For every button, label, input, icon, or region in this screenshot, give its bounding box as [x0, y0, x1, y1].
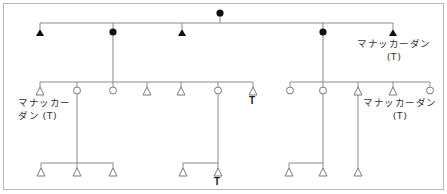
filled-triangle-icon — [36, 29, 44, 36]
open-triangle-icon — [214, 168, 222, 176]
gen3-right-label: マナッカーダン (T) — [358, 96, 442, 122]
label-line-name: マナッカー — [18, 96, 71, 109]
filled-circle-icon — [319, 28, 326, 35]
open-circle-icon — [215, 87, 222, 94]
open-triangle-icon — [354, 168, 362, 176]
filled-circle-icon — [216, 9, 223, 16]
open-circle-icon — [427, 87, 434, 94]
open-triangle-icon — [37, 168, 45, 176]
open-triangle-icon — [389, 87, 397, 95]
label-line-name: マナッカーダン — [352, 37, 436, 50]
label-line-name: マナッカーダン — [358, 96, 442, 109]
t-mark-gen4: T — [214, 176, 220, 187]
filled-circle-icon — [109, 28, 116, 35]
open-triangle-icon — [73, 168, 81, 176]
filled-triangle-icon — [389, 29, 397, 36]
open-triangle-icon — [354, 87, 362, 95]
open-triangle-icon — [36, 87, 44, 95]
label-line-tag: (T) — [358, 109, 442, 122]
open-circle-icon — [320, 87, 327, 94]
label-line-tag: ダン (T) — [18, 109, 71, 122]
open-triangle-icon — [285, 168, 293, 176]
gen2-right-label: マナッカーダン (T) — [352, 37, 436, 63]
open-triangle-icon — [249, 87, 257, 95]
gen3-left-label: マナッカー ダン (T) — [18, 96, 71, 122]
open-triangle-icon — [109, 168, 117, 176]
open-triangle-icon — [319, 168, 327, 176]
open-triangle-icon — [177, 87, 185, 95]
open-circle-icon — [74, 87, 81, 94]
t-mark-gen3: T — [249, 95, 255, 106]
open-circle-icon — [110, 87, 117, 94]
filled-triangle-icon — [178, 29, 186, 36]
open-triangle-icon — [143, 87, 151, 95]
label-line-tag: (T) — [352, 50, 436, 63]
open-triangle-icon — [179, 168, 187, 176]
open-circle-icon — [287, 87, 294, 94]
